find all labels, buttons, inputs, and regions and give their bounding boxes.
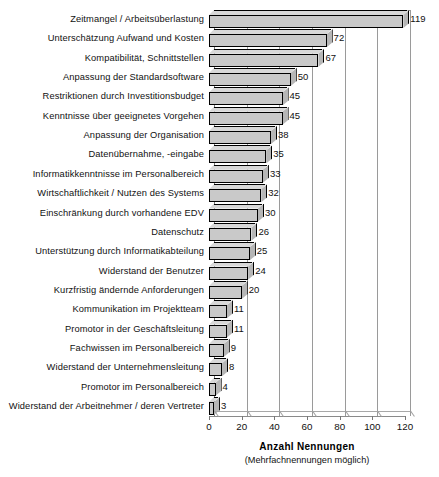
bar-row: 38 (209, 126, 405, 146)
bar-front-face (209, 15, 403, 28)
bar-row: 30 (209, 204, 405, 224)
bar-top-edge (214, 165, 267, 166)
bar-front-face (209, 305, 227, 318)
bar (209, 150, 271, 163)
category-label: Informatikkenntnisse im Personalbereich (0, 169, 204, 179)
category-label-column: Zeitmangel / ArbeitsüberlastungUnterschä… (0, 0, 204, 418)
bar-value-label: 26 (258, 226, 269, 238)
bar (209, 267, 253, 280)
bar-top-edge (214, 223, 255, 224)
bar-top-edge (214, 262, 252, 263)
x-tick-120 (405, 416, 406, 420)
bar (209, 189, 266, 202)
bar-front-face (209, 286, 242, 299)
bar-top-edge (214, 145, 270, 146)
bar (209, 247, 255, 260)
bar-top-edge (214, 339, 228, 340)
x-tick-0 (209, 416, 210, 420)
x-tick-label: 20 (227, 421, 257, 433)
bar (209, 344, 229, 357)
category-label: Kenntnisse über geeignetes Vorgehen (0, 111, 204, 121)
bar-front-face (209, 383, 216, 396)
bar-front-face (209, 112, 283, 125)
bar (209, 402, 219, 415)
bar-front-face (209, 54, 318, 67)
bar-top-edge (214, 397, 218, 398)
bar-front-face (209, 189, 261, 202)
bar-value-label: 8 (229, 361, 234, 373)
category-label: Promotor im Personalbereich (0, 382, 204, 392)
bar-top-edge (214, 204, 262, 205)
bar-value-label: 119 (410, 13, 425, 25)
bar (209, 209, 263, 222)
bar-top-edge (214, 378, 220, 379)
bar-top-edge (214, 320, 231, 321)
category-label: Kurzfristig ändernde Anforderungen (0, 285, 204, 295)
bar-row: 11 (209, 320, 405, 340)
x-tick-20 (242, 416, 243, 420)
bar-value-label: 72 (334, 32, 345, 44)
x-tick-label: 40 (259, 421, 289, 433)
category-label: Einschränkung durch vorhandene EDV (0, 208, 204, 218)
bar-value-label: 38 (278, 129, 289, 141)
category-label: Restriktionen durch Investitionsbudget (0, 91, 204, 101)
category-label: Anpassung der Standardsoftware (0, 72, 204, 82)
bar-value-label: 20 (249, 284, 260, 296)
bar-row: 26 (209, 223, 405, 243)
bar-front-face (209, 228, 251, 241)
bar-value-label: 50 (298, 71, 309, 83)
bar-value-label: 9 (231, 342, 236, 354)
bar-row: 32 (209, 184, 405, 204)
x-tick-40 (274, 416, 275, 420)
bar-value-label: 35 (273, 148, 284, 160)
category-label: Kommunikation im Projektteam (0, 304, 204, 314)
bar-value-label: 45 (290, 110, 301, 122)
bar-value-label: 11 (234, 323, 244, 335)
bar (209, 305, 232, 318)
category-label: Fachwissen im Personalbereich (0, 343, 204, 353)
bar-row: 119 (209, 10, 405, 30)
bar-front-face (209, 363, 222, 376)
bar-front-face (209, 131, 271, 144)
bar-row: 35 (209, 145, 405, 165)
bar-row: 50 (209, 68, 405, 88)
category-label: Widerstand der Arbeitnehmer / deren Vert… (0, 401, 204, 411)
category-label: Promotor in der Geschäftsleitung (0, 324, 204, 334)
bar-value-label: 45 (290, 90, 301, 102)
bar-value-label: 33 (270, 168, 281, 180)
bar-top-edge (214, 49, 322, 50)
bar-front-face (209, 150, 266, 163)
bar-top-edge (214, 184, 265, 185)
category-label: Wirtschaftlichkeit / Nutzen des Systems (0, 188, 204, 198)
bar-row: 9 (209, 339, 405, 359)
category-label: Unterschätzung Aufwand und Kosten (0, 33, 204, 43)
bar-row: 25 (209, 242, 405, 262)
bar-front-face (209, 170, 263, 183)
category-label: Widerstand der Unternehmensleitung (0, 362, 204, 372)
bar (209, 54, 323, 67)
bar-row: 3 (209, 397, 405, 417)
category-label: Zeitmangel / Arbeitsüberlastung (0, 14, 204, 24)
x-axis-subtitle: (Mehrfachnennungen möglich) (189, 455, 425, 465)
category-label: Unterstützung durch Informatikabteilung (0, 246, 204, 256)
bar-top-edge (214, 107, 287, 108)
bar-top-edge (214, 87, 287, 88)
bar-value-label: 24 (255, 265, 266, 277)
bar (209, 112, 288, 125)
bar-front-face (209, 344, 224, 357)
category-label: Datenübernahme, -eingabe (0, 149, 204, 159)
x-tick-label: 80 (325, 421, 355, 433)
bar-front-face (209, 34, 327, 47)
bar-row: 67 (209, 49, 405, 69)
bar (209, 228, 256, 241)
bar-front-face (209, 247, 250, 260)
bar-top-edge (214, 126, 275, 127)
bar-value-label: 67 (325, 52, 336, 64)
bar-value-label: 32 (268, 187, 279, 199)
bar-row: 24 (209, 262, 405, 282)
bar-value-label: 4 (223, 381, 228, 393)
x-tick-label: 100 (357, 421, 387, 433)
x-tick-label: 0 (194, 421, 224, 433)
bar (209, 92, 288, 105)
bar (209, 286, 247, 299)
